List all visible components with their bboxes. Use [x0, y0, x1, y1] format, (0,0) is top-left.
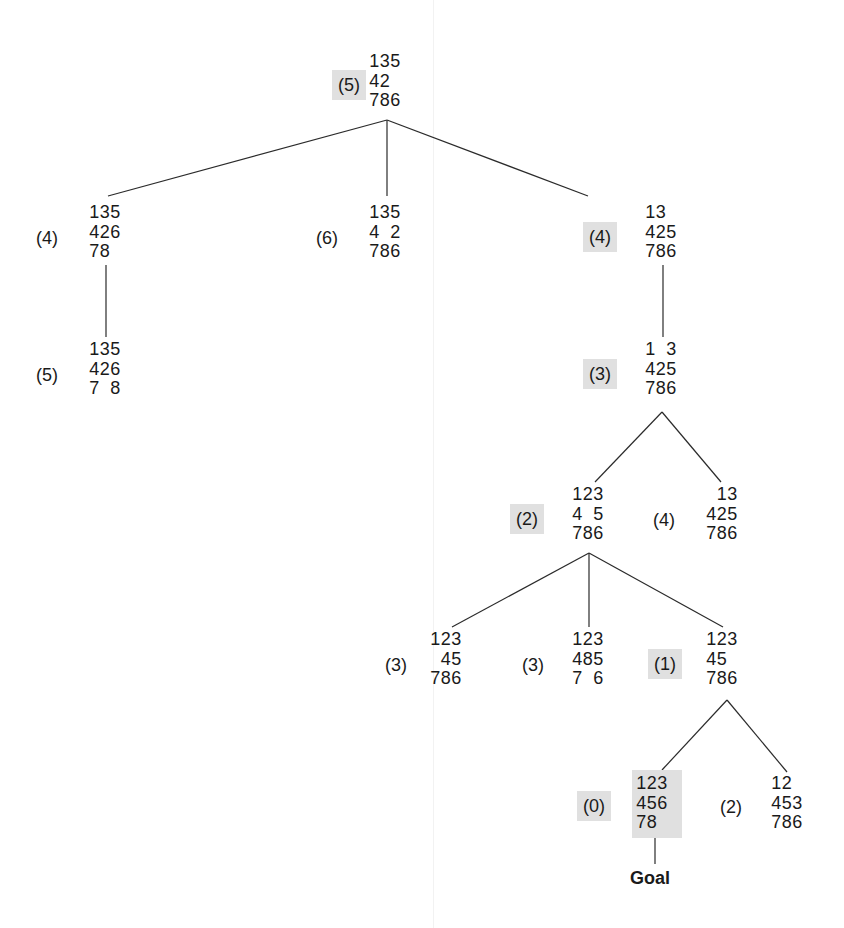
- puzzle-blank: [656, 340, 667, 360]
- puzzle-node-c1a3: 123 45 786: [706, 630, 738, 689]
- puzzle-tile: 3: [593, 485, 604, 505]
- puzzle-row: 786: [771, 813, 803, 833]
- puzzle-tile: 4: [572, 650, 583, 670]
- puzzle-row: 7 8: [89, 379, 121, 399]
- puzzle-row: 45: [430, 650, 462, 670]
- cost-label-b: (6): [316, 228, 338, 248]
- puzzle-row: 135: [89, 203, 121, 223]
- puzzle-tile: 1: [645, 340, 656, 360]
- puzzle-tile: 1: [572, 485, 583, 505]
- puzzle-tile: 8: [380, 91, 391, 111]
- edge-c1a-c1a1: [452, 553, 589, 627]
- cost-label-c1a1: (3): [385, 655, 407, 675]
- puzzle-row: 786: [645, 379, 677, 399]
- puzzle-row: 123: [572, 485, 604, 505]
- puzzle-tile: 1: [369, 52, 380, 72]
- puzzle-blank: [706, 485, 717, 505]
- puzzle-tile: 5: [593, 505, 604, 525]
- puzzle-node-c1a1: 123 45 786: [430, 630, 462, 689]
- puzzle-tile: 6: [666, 379, 677, 399]
- edge-c1-c1a: [595, 412, 662, 482]
- puzzle-tile: 5: [782, 794, 793, 814]
- cost-label-c1a2: (3): [522, 655, 544, 675]
- puzzle-tile: 5: [110, 340, 121, 360]
- puzzle-tile: 3: [657, 774, 668, 794]
- puzzle-row: 7 6: [572, 669, 604, 689]
- puzzle-tile: 4: [645, 223, 656, 243]
- cost-label-a1: (5): [36, 365, 58, 385]
- puzzle-row: 135: [89, 340, 121, 360]
- puzzle-tile: 3: [380, 203, 391, 223]
- cost-label-c1b: (4): [653, 510, 675, 530]
- puzzle-tile: 1: [430, 630, 441, 650]
- puzzle-node-c1b: 13 425 786: [706, 485, 738, 544]
- cost-badge-root: (5): [332, 70, 366, 100]
- puzzle-tile: 2: [647, 774, 658, 794]
- puzzle-tile: 2: [100, 360, 111, 380]
- puzzle-tile: 1: [89, 203, 100, 223]
- puzzle-tile: 8: [717, 669, 728, 689]
- edge-c1a3-goal: [662, 700, 727, 770]
- edge-c1a3-c1a3b: [727, 700, 787, 772]
- puzzle-tile: 5: [666, 360, 677, 380]
- puzzle-row: 453: [771, 794, 803, 814]
- puzzle-tile: 2: [717, 630, 728, 650]
- puzzle-node-c1: 1 3 425 786: [645, 340, 677, 399]
- puzzle-row: 1 3: [645, 340, 677, 360]
- puzzle-tile: 2: [380, 72, 391, 92]
- puzzle-tile: 2: [656, 360, 667, 380]
- goal-label: Goal: [630, 868, 670, 889]
- puzzle-row: 425: [645, 223, 677, 243]
- puzzle-tile: 8: [380, 242, 391, 262]
- cost-badge-c1a: (2): [510, 504, 544, 534]
- puzzle-blank: [792, 774, 803, 794]
- puzzle-row: 12: [771, 774, 803, 794]
- puzzle-tile: 7: [645, 379, 656, 399]
- puzzle-tile: 8: [110, 379, 121, 399]
- puzzle-tile: 2: [100, 223, 111, 243]
- puzzle-tile: 3: [593, 630, 604, 650]
- puzzle-tile: 2: [782, 774, 793, 794]
- puzzle-row: 786: [645, 242, 677, 262]
- puzzle-tile: 8: [782, 813, 793, 833]
- puzzle-tile: 7: [89, 242, 100, 262]
- puzzle-row: 4 5: [572, 505, 604, 525]
- puzzle-row: 786: [706, 524, 738, 544]
- puzzle-row: 425: [645, 360, 677, 380]
- puzzle-row: 485: [572, 650, 604, 670]
- puzzle-blank: [583, 505, 594, 525]
- puzzle-row: 786: [572, 524, 604, 544]
- puzzle-tile: 7: [706, 669, 717, 689]
- puzzle-node-b: 135 4 2 786: [369, 203, 401, 262]
- puzzle-tile: 2: [441, 630, 452, 650]
- edge-root-c: [387, 120, 588, 196]
- puzzle-tile: 7: [572, 669, 583, 689]
- puzzle-tile: 6: [110, 223, 121, 243]
- puzzle-tile: 6: [593, 669, 604, 689]
- puzzle-tile: 2: [656, 223, 667, 243]
- puzzle-tile: 1: [89, 340, 100, 360]
- puzzle-tile: 7: [430, 669, 441, 689]
- puzzle-tile: 7: [572, 524, 583, 544]
- cost-badge-c1a3: (1): [648, 649, 682, 679]
- puzzle-blank: [666, 203, 677, 223]
- edge-root-a: [108, 120, 387, 196]
- puzzle-tile: 7: [369, 91, 380, 111]
- puzzle-tile: 5: [647, 794, 658, 814]
- puzzle-row: 456: [636, 794, 668, 814]
- puzzle-tile: 4: [636, 794, 647, 814]
- puzzle-tile: 8: [656, 379, 667, 399]
- puzzle-tile: 4: [369, 223, 380, 243]
- puzzle-tile: 5: [451, 650, 462, 670]
- puzzle-row: 786: [369, 91, 401, 111]
- puzzle-tile: 5: [390, 52, 401, 72]
- puzzle-tile: 4: [706, 505, 717, 525]
- puzzle-node-goal: 123 456 78: [636, 774, 668, 833]
- puzzle-tile: 1: [706, 630, 717, 650]
- puzzle-tile: 7: [369, 242, 380, 262]
- puzzle-row: 13: [706, 485, 738, 505]
- edge-c1a-c1a3: [589, 553, 723, 627]
- puzzle-blank: [100, 379, 111, 399]
- puzzle-tile: 1: [771, 774, 782, 794]
- puzzle-tile: 3: [792, 794, 803, 814]
